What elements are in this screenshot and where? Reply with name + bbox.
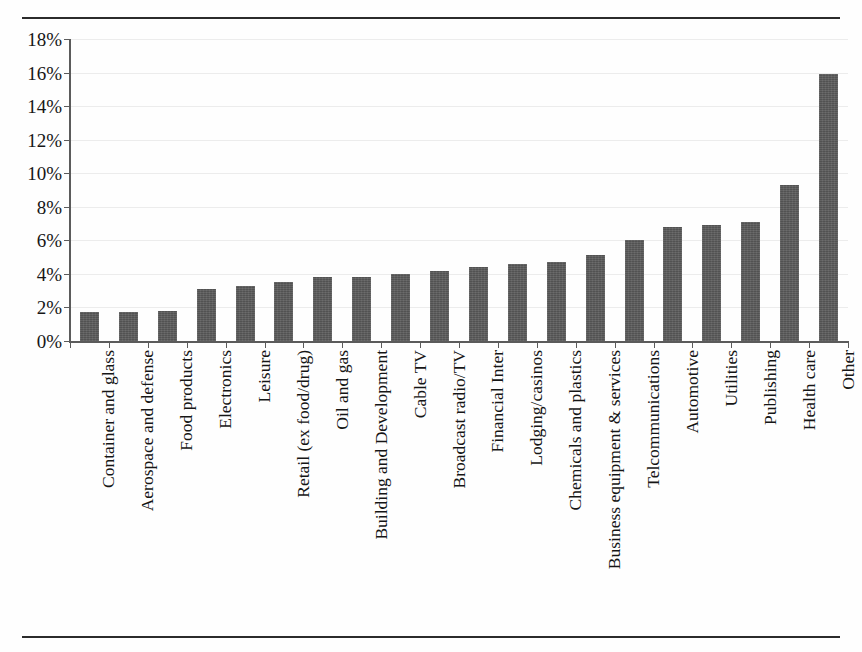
x-axis-category: Telcommunications [640, 350, 658, 488]
x-tick-label: Aerospace and defense [139, 350, 157, 511]
x-axis-category: Oil and gas [329, 350, 347, 430]
x-axis-category: Utilities [718, 350, 736, 406]
x-tick-label: Lodging/casinos [528, 350, 546, 466]
y-tick-label: 4% [0, 265, 62, 284]
x-tick-mark [226, 341, 227, 348]
x-tick-mark [848, 341, 849, 348]
x-tick-label: Oil and gas [334, 350, 352, 430]
x-tick-label: Cable TV [412, 350, 430, 418]
x-tick-mark [498, 341, 499, 348]
x-tick-mark [420, 341, 421, 348]
x-axis-category: Financial Inter [484, 350, 502, 453]
x-axis-category: Building and Development [368, 350, 386, 540]
x-tick-label: Health care [801, 350, 819, 430]
x-axis-category: Business equipment & services [601, 350, 619, 569]
y-tick-label: 14% [0, 97, 62, 116]
x-tick-label: Other [840, 350, 858, 390]
x-tick-label: Business equipment & services [606, 350, 624, 569]
x-tick-mark [731, 341, 732, 348]
y-tick-label: 8% [0, 198, 62, 217]
x-tick-label: Telcommunications [645, 350, 663, 488]
x-axis-category: Automotive [679, 350, 697, 434]
y-tick-label: 6% [0, 231, 62, 250]
x-axis-category: Leisure [251, 350, 269, 402]
x-tick-label: Chemicals and plastics [567, 350, 585, 510]
x-axis-category: Lodging/casinos [523, 350, 541, 466]
x-axis-category: Publishing [757, 350, 775, 425]
x-tick-mark [809, 341, 810, 348]
x-tick-mark [615, 341, 616, 348]
x-tick-mark [187, 341, 188, 348]
x-tick-label: Food products [178, 350, 196, 451]
x-tick-label: Broadcast radio/TV [451, 350, 469, 489]
x-tick-mark [654, 341, 655, 348]
chart-title [0, 0, 862, 2]
x-axis-category: Aerospace and defense [134, 350, 152, 511]
y-tick-label: 18% [0, 30, 62, 49]
x-tick-mark [576, 341, 577, 348]
x-tick-mark [692, 341, 693, 348]
x-tick-mark [265, 341, 266, 348]
x-axis-category: Health care [796, 350, 814, 430]
page-rule-top [22, 17, 840, 19]
x-tick-mark [770, 341, 771, 348]
y-tick-label: 12% [0, 131, 62, 150]
y-tick-label: 10% [0, 164, 62, 183]
x-tick-mark [537, 341, 538, 348]
x-tick-label: Publishing [762, 350, 780, 425]
y-tick-label: 0% [0, 332, 62, 351]
x-tick-label: Automotive [684, 350, 702, 434]
x-tick-mark [148, 341, 149, 348]
x-tick-mark [109, 341, 110, 348]
x-tick-label: Financial Inter [489, 350, 507, 453]
y-axis-labels: 0%2%4%6%8%10%12%14%16%18% [0, 39, 862, 341]
chart-figure: 0%2%4%6%8%10%12%14%16%18% Container and … [0, 0, 862, 652]
y-tick-label: 16% [0, 64, 62, 83]
x-tick-label: Utilities [723, 350, 741, 406]
x-tick-label: Leisure [256, 350, 274, 402]
x-axis-category: Container and glass [95, 350, 113, 488]
x-tick-mark [342, 341, 343, 348]
x-tick-mark [70, 341, 71, 348]
x-tick-mark [303, 341, 304, 348]
x-axis-category: Cable TV [407, 350, 425, 418]
x-axis-category: Chemicals and plastics [562, 350, 580, 510]
x-tick-label: Building and Development [373, 350, 391, 540]
x-tick-label: Electronics [217, 350, 235, 429]
x-axis-labels: Container and glassAerospace and defense… [70, 350, 848, 640]
x-axis-category: Broadcast radio/TV [446, 350, 464, 489]
x-tick-mark [459, 341, 460, 348]
x-tick-label: Retail (ex food/drug) [295, 350, 313, 498]
x-axis-category: Electronics [212, 350, 230, 429]
x-axis-category: Other [835, 350, 853, 390]
x-tick-label: Container and glass [100, 350, 118, 488]
x-axis-category: Food products [173, 350, 191, 451]
y-axis-line [69, 39, 71, 342]
x-tick-mark [381, 341, 382, 348]
x-axis-category: Retail (ex food/drug) [290, 350, 308, 498]
y-tick-label: 2% [0, 298, 62, 317]
